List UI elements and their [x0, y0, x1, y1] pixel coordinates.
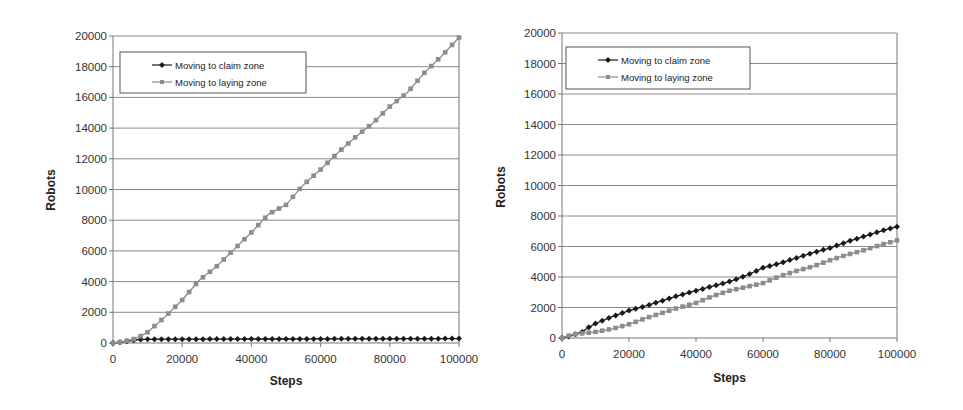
data-point: [394, 99, 399, 104]
data-point: [373, 336, 379, 342]
data-point: [436, 57, 441, 62]
data-point: [172, 336, 178, 342]
data-point: [848, 252, 853, 257]
data-point: [457, 35, 462, 40]
x-tick-label: 0: [110, 353, 116, 365]
data-point: [367, 124, 372, 129]
data-point: [414, 336, 420, 342]
data-point: [647, 315, 652, 320]
data-point: [840, 240, 846, 246]
data-point: [428, 336, 434, 342]
y-tick-label: 14000: [524, 119, 556, 131]
data-point: [387, 336, 393, 342]
y-tick-label: 16000: [75, 91, 107, 103]
y-tick-label: 18000: [75, 61, 107, 73]
data-point: [276, 336, 282, 342]
data-point: [760, 265, 766, 271]
data-point: [235, 244, 240, 249]
data-point: [284, 203, 289, 208]
y-axis-title: Robots: [44, 169, 58, 211]
data-point: [318, 336, 324, 342]
y-tick-label: 10000: [524, 180, 556, 192]
data-point: [794, 255, 800, 261]
data-point: [208, 269, 213, 274]
data-point: [714, 293, 719, 298]
data-point: [861, 234, 867, 240]
legend-label: Moving to claim zone: [175, 60, 264, 71]
chart-left: 0200040006000800010000120001400016000180…: [0, 0, 480, 410]
data-point: [894, 224, 900, 230]
x-axis-title: Steps: [713, 371, 746, 385]
data-point: [887, 226, 893, 232]
data-point: [807, 251, 813, 257]
data-point: [366, 336, 372, 342]
y-tick-label: 6000: [530, 241, 556, 253]
data-point: [421, 336, 427, 342]
data-point: [435, 336, 441, 342]
data-point: [304, 180, 309, 185]
data-point: [118, 340, 123, 345]
data-point: [834, 256, 839, 261]
data-point: [360, 129, 365, 134]
data-point: [613, 312, 619, 318]
data-point: [808, 265, 813, 270]
data-point: [298, 187, 303, 192]
square-marker-icon: [606, 75, 610, 79]
data-point: [855, 250, 860, 255]
legend-label: Moving to claim zone: [621, 55, 710, 66]
data-point: [207, 336, 213, 342]
data-point: [235, 336, 241, 342]
y-tick-label: 16000: [524, 88, 556, 100]
data-point: [443, 50, 448, 55]
data-point: [152, 324, 157, 329]
data-point: [606, 315, 612, 321]
data-point: [680, 304, 685, 309]
y-tick-label: 0: [101, 337, 107, 349]
data-point: [228, 250, 233, 255]
data-point: [269, 336, 275, 342]
data-point: [263, 215, 268, 220]
y-tick-label: 18000: [524, 58, 556, 70]
data-point: [422, 71, 427, 76]
data-point: [694, 301, 699, 306]
legend: [566, 47, 750, 89]
data-point: [895, 238, 900, 243]
data-point: [456, 336, 462, 342]
data-point: [867, 231, 873, 237]
data-point: [214, 336, 220, 342]
y-tick-label: 20000: [524, 27, 556, 39]
data-point: [788, 271, 793, 276]
data-point: [325, 160, 330, 165]
data-point: [674, 306, 679, 311]
data-point: [734, 287, 739, 292]
x-tick-label: 20000: [166, 353, 198, 365]
data-point: [145, 336, 151, 342]
data-point: [338, 336, 344, 342]
data-point: [767, 278, 772, 283]
data-point: [415, 79, 420, 84]
data-point: [311, 336, 317, 342]
data-point: [145, 330, 150, 335]
data-point: [429, 64, 434, 69]
data-point: [653, 300, 659, 306]
data-point: [352, 336, 358, 342]
data-point: [374, 118, 379, 123]
data-point: [241, 336, 247, 342]
data-point: [304, 336, 310, 342]
y-axis-title: Robots: [494, 166, 508, 208]
data-point: [248, 336, 254, 342]
data-point: [270, 210, 275, 215]
data-point: [450, 43, 455, 48]
data-point: [346, 141, 351, 146]
chart-svg: 0200040006000800010000120001400016000180…: [480, 0, 963, 410]
data-point: [660, 311, 665, 316]
y-tick-label: 8000: [530, 210, 556, 222]
data-point: [854, 236, 860, 242]
data-point: [814, 263, 819, 268]
data-point: [221, 257, 226, 262]
data-point: [720, 280, 726, 286]
data-point: [131, 337, 136, 342]
data-point: [442, 336, 448, 342]
data-point: [353, 135, 358, 140]
x-tick-label: 80000: [814, 348, 846, 360]
